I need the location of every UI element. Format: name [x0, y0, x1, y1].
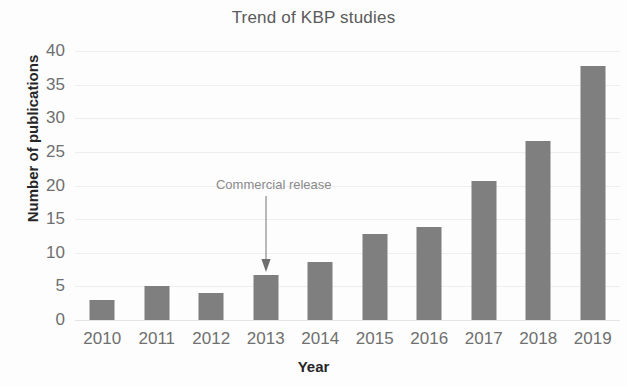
bar [471, 181, 496, 320]
x-tick-label: 2018 [508, 329, 568, 349]
bar [580, 66, 605, 320]
y-axis-title: Number of publications [24, 39, 41, 239]
x-tick-label: 2016 [399, 329, 459, 349]
chart-title: Trend of KBP studies [0, 8, 627, 28]
gridline [75, 51, 620, 52]
down-arrow-icon [258, 196, 274, 274]
gridline [75, 85, 620, 86]
y-tick-label: 5 [25, 276, 65, 296]
bar [144, 286, 169, 320]
x-tick-label: 2010 [72, 329, 132, 349]
bar [362, 234, 387, 320]
y-tick-label: 10 [25, 243, 65, 263]
x-axis-line [75, 320, 620, 321]
x-axis-title: Year [0, 358, 627, 375]
gridline [75, 118, 620, 119]
bar [199, 293, 224, 320]
bar [308, 262, 333, 320]
bar-chart: Trend of KBP studies 4035302520151050 20… [0, 0, 627, 387]
x-tick-label: 2019 [563, 329, 623, 349]
x-tick-label: 2013 [236, 329, 296, 349]
x-tick-label: 2017 [454, 329, 514, 349]
x-tick-label: 2011 [127, 329, 187, 349]
plot-area [75, 51, 620, 320]
bar [417, 227, 442, 320]
x-tick-label: 2012 [181, 329, 241, 349]
x-tick-label: 2015 [345, 329, 405, 349]
bar [253, 275, 278, 320]
x-tick-label: 2014 [290, 329, 350, 349]
y-tick-label: 0 [25, 310, 65, 330]
bar [526, 141, 551, 320]
bar [90, 300, 115, 320]
annotation-label: Commercial release [216, 177, 332, 192]
